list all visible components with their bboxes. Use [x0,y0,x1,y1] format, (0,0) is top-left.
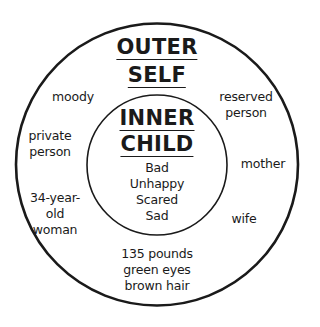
outer-trait-34-year-old-woman: 34-year- old woman [30,190,80,238]
outer-self-title-line2: SELF [128,64,186,88]
trait-text: 34-year- [30,190,80,206]
feeling-text: Sad [130,208,185,224]
outer-trait-private-person: private person [29,128,72,160]
trait-text: private [29,128,72,144]
inner-child-title-line2: CHILD [120,133,193,157]
trait-text: 135 pounds [121,246,193,262]
trait-text: green eyes [121,262,193,278]
trait-text: person [29,144,72,160]
outer-trait-moody: moody [52,89,94,105]
outer-trait-reserved-person: reserved person [219,89,272,121]
trait-text: moody [52,89,94,105]
feeling-text: Unhappy [130,176,185,192]
trait-text: woman [30,222,80,238]
inner-child-title-line1: INNER [120,107,195,131]
outer-trait-physical: 135 pounds green eyes brown hair [121,246,193,294]
feeling-text: Scared [130,192,185,208]
outer-trait-mother: mother [241,156,285,172]
trait-text: old [30,206,80,222]
trait-text: wife [232,211,257,227]
trait-text: person [219,105,272,121]
feeling-text: Bad [130,160,185,176]
inner-child-feelings: Bad Unhappy Scared Sad [130,160,185,224]
outer-self-title-line1: OUTER [116,36,197,60]
trait-text: reserved [219,89,272,105]
outer-trait-wife: wife [232,211,257,227]
trait-text: mother [241,156,285,172]
trait-text: brown hair [121,278,193,294]
